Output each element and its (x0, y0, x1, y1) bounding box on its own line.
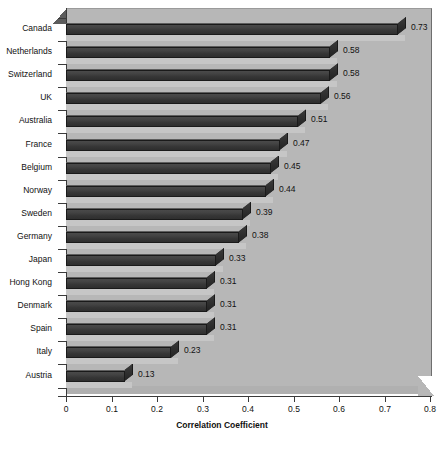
bar-front-face (66, 24, 398, 35)
plot-box-bevel (53, 8, 67, 24)
category-label-france: France (26, 139, 52, 149)
category-label-sweden: Sweden (21, 208, 52, 218)
correlation-coefficient-bar-chart: 0.730.580.580.560.510.470.450.440.390.38… (0, 0, 444, 450)
x-axis-tick (157, 396, 158, 402)
bar-front-face (66, 163, 271, 174)
bar-shelf (66, 220, 250, 226)
category-label-belgium: Belgium (21, 162, 52, 172)
x-axis-tick (339, 396, 340, 402)
bar-shelf (66, 266, 223, 272)
category-label-italy: Italy (36, 346, 52, 356)
bar-front-face (66, 278, 207, 289)
x-axis-tick-label: 0.6 (324, 404, 354, 414)
x-axis-tick (112, 396, 113, 402)
bar-front-face (66, 255, 216, 266)
y-axis-tick (58, 295, 66, 296)
category-label-japan: Japan (29, 254, 52, 264)
x-axis-tick (248, 396, 249, 402)
bar-shelf (66, 104, 328, 110)
y-axis-tick (58, 203, 66, 204)
category-label-denmark: Denmark (18, 300, 52, 310)
bar-shelf (66, 151, 287, 157)
category-label-canada: Canada (22, 23, 52, 33)
bar-shelf (66, 35, 405, 41)
bar-front-face (66, 301, 207, 312)
y-axis-tick (58, 341, 66, 342)
x-axis-tick-label: 0.7 (370, 404, 400, 414)
y-axis-tick (58, 180, 66, 181)
bar-value-label: 0.47 (293, 138, 310, 148)
category-label-norway: Norway (23, 185, 52, 195)
bar-shelf (66, 127, 305, 133)
x-axis-tick-label: 0.1 (97, 404, 127, 414)
x-axis-tick (294, 396, 295, 402)
bar-front-face (66, 347, 171, 358)
x-axis-tick (430, 396, 431, 402)
bar-value-label: 0.73 (411, 22, 428, 32)
bar-front-face (66, 186, 266, 197)
bar-front-face (66, 116, 298, 127)
bar-shelf (66, 312, 214, 318)
x-axis-tick-label: 0.3 (188, 404, 218, 414)
bar-value-label: 0.33 (229, 253, 246, 263)
y-axis-tick (58, 364, 66, 365)
x-axis-tick-label: 0.8 (415, 404, 444, 414)
bar-value-label: 0.31 (220, 299, 237, 309)
x-axis-line (58, 396, 432, 397)
bar-value-label: 0.38 (252, 230, 269, 240)
category-label-austria: Austria (26, 370, 52, 380)
bar-front-face (66, 70, 330, 81)
bar-shelf (66, 358, 178, 364)
bar-value-label: 0.58 (343, 68, 360, 78)
bar-front-face (66, 140, 280, 151)
bar-front-face (66, 371, 125, 382)
bar-value-label: 0.31 (220, 276, 237, 286)
y-axis-tick (58, 388, 66, 389)
bar-value-label: 0.58 (343, 45, 360, 55)
bar-shelf (66, 335, 214, 341)
x-axis-tick-label: 0.5 (279, 404, 309, 414)
y-axis-tick (58, 133, 66, 134)
bar-front-face (66, 232, 239, 243)
x-axis-tick (203, 396, 204, 402)
bar-front-face (66, 93, 321, 104)
bar-front-face (66, 324, 207, 335)
y-axis-tick (58, 18, 66, 19)
y-axis-tick (58, 249, 66, 250)
y-axis-tick (58, 318, 66, 319)
bar-shelf (66, 197, 273, 203)
category-label-switzerland: Switzerland (8, 69, 52, 79)
x-axis-tick-label: 0 (51, 404, 81, 414)
bar-value-label: 0.23 (184, 345, 201, 355)
bar-value-label: 0.39 (256, 207, 273, 217)
category-label-germany: Germany (17, 231, 52, 241)
x-axis-tick (385, 396, 386, 402)
bar-value-label: 0.51 (311, 114, 328, 124)
x-axis-title: Correlation Coefficient (0, 420, 444, 430)
bar-value-label: 0.44 (279, 184, 296, 194)
category-label-australia: Australia (19, 115, 52, 125)
bar-shelf (66, 289, 214, 295)
bar-value-label: 0.13 (138, 369, 155, 379)
bar-value-label: 0.31 (220, 322, 237, 332)
bar-shelf (66, 81, 337, 87)
y-axis-tick (58, 226, 66, 227)
category-label-uk: UK (40, 92, 52, 102)
y-axis-tick (58, 64, 66, 65)
y-axis-tick (58, 110, 66, 111)
bar-front-face (66, 209, 243, 220)
y-axis-tick (58, 272, 66, 273)
category-label-spain: Spain (30, 323, 52, 333)
bar-shelf (66, 58, 337, 64)
bar-shelf (66, 382, 132, 388)
category-label-netherlands: Netherlands (6, 46, 52, 56)
x-axis-tick-label: 0.4 (233, 404, 263, 414)
y-axis-tick (58, 41, 66, 42)
category-label-hong-kong: Hong Kong (9, 277, 52, 287)
y-axis-tick (58, 87, 66, 88)
plot-floor-perspective-edge (418, 376, 434, 396)
bar-value-label: 0.45 (284, 161, 301, 171)
bar-value-label: 0.56 (334, 91, 351, 101)
bar-shelf (66, 243, 246, 249)
bar-shelf (66, 174, 278, 180)
